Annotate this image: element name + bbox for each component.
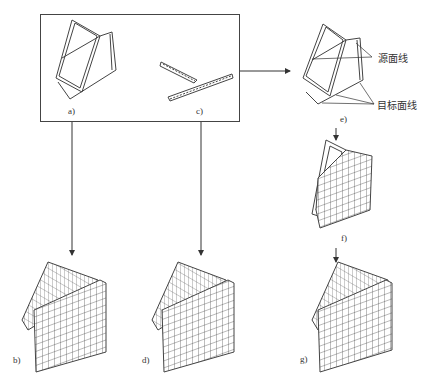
label-f: f)	[341, 233, 347, 243]
source-line-annotation: 源面线	[378, 50, 408, 65]
panel-b-mesh	[22, 262, 106, 372]
panel-d-mesh	[152, 262, 234, 372]
label-g: g)	[300, 354, 308, 364]
label-a: a)	[68, 106, 75, 116]
panel-g-mesh	[312, 262, 392, 372]
panel-c-strip	[160, 62, 233, 101]
label-e: e)	[340, 114, 347, 124]
label-b: b)	[13, 355, 21, 365]
label-c: c)	[196, 106, 203, 116]
label-d: d)	[142, 355, 150, 365]
panel-f-mesh	[312, 140, 372, 228]
panel-e-frame	[303, 24, 363, 104]
target-line-annotation: 目标面线	[377, 97, 417, 112]
diagram-canvas	[0, 0, 426, 385]
panel-a-frame	[56, 20, 116, 99]
